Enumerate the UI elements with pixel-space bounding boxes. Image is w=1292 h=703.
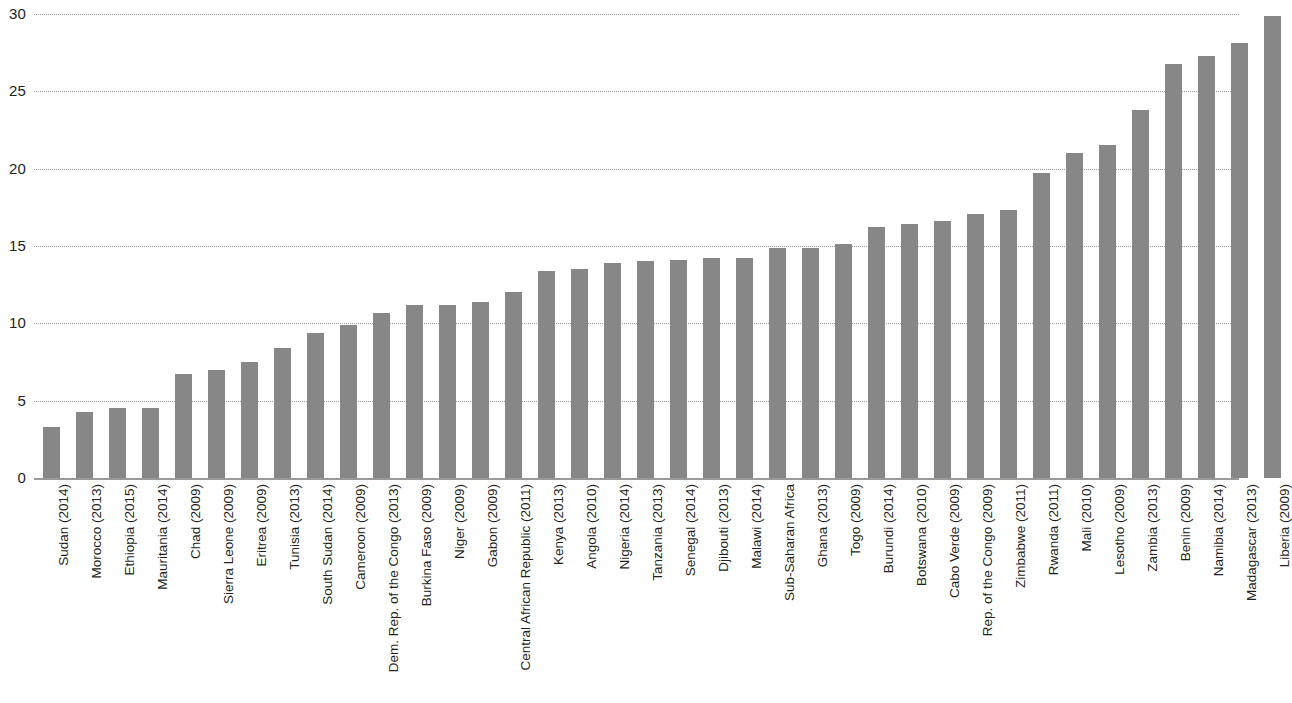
- category-label-text: Burundi (2014): [882, 484, 896, 573]
- category-label-text: Zimbabwe (2011): [1014, 484, 1028, 588]
- category-label-text: Cabo Verde (2009): [948, 484, 962, 598]
- x-axis-category-label: Burundi (2014): [882, 484, 896, 573]
- bar[interactable]: [43, 427, 60, 478]
- x-axis-category-label: Rwanda (2011): [1047, 484, 1061, 575]
- category-label-text: Tanzania (2013): [651, 484, 665, 581]
- x-axis-category-label: Namibia (2014): [1212, 484, 1226, 576]
- bar[interactable]: [1231, 43, 1248, 478]
- x-axis-category-label: Mali (2010): [1080, 484, 1094, 552]
- x-axis-category-label: Sub-Saharan Africa: [783, 484, 797, 601]
- x-axis-category-label: Madagascar (2013): [1245, 484, 1259, 601]
- bar[interactable]: [736, 258, 753, 478]
- category-label-text: Ghana (2013): [816, 484, 830, 567]
- bar[interactable]: [1066, 153, 1083, 478]
- bar[interactable]: [274, 348, 291, 478]
- category-label-text: Lesotho (2009): [1113, 484, 1127, 575]
- bar[interactable]: [967, 214, 984, 478]
- x-axis-category-label: Kenya (2013): [552, 484, 566, 565]
- bar[interactable]: [1033, 173, 1050, 478]
- bar[interactable]: [373, 313, 390, 478]
- bar[interactable]: [1132, 110, 1149, 478]
- category-label-text: Madagascar (2013): [1245, 484, 1259, 601]
- x-axis-category-label: Morocco (2013): [90, 484, 104, 579]
- category-label-text: Central African Republic (2011): [519, 484, 533, 671]
- bar[interactable]: [142, 408, 159, 478]
- category-label-text: Kenya (2013): [552, 484, 566, 565]
- x-axis-category-label: Liberia (2009): [1278, 484, 1292, 567]
- bar[interactable]: [604, 263, 621, 478]
- category-label-text: Burkina Faso (2009): [420, 484, 434, 606]
- bar[interactable]: [1000, 210, 1017, 478]
- category-label-text: South Sudan (2014): [321, 484, 335, 605]
- x-axis-category-label: Chad (2009): [189, 484, 203, 559]
- x-axis-category-label: Sierra Leone (2009): [222, 484, 236, 604]
- x-axis-category-label: Dem. Rep. of the Congo (2013): [387, 484, 401, 672]
- category-label-text: Sub-Saharan Africa: [783, 484, 797, 601]
- bar[interactable]: [406, 305, 423, 478]
- category-label-text: Benin (2009): [1179, 484, 1193, 561]
- category-label-text: Senegal (2014): [684, 484, 698, 576]
- category-label-text: Djibouti (2013): [717, 484, 731, 572]
- category-label-text: Tunisia (2013): [288, 484, 302, 570]
- x-axis-category-labels: Sudan (2014)Morocco (2013)Ethiopia (2015…: [34, 484, 1239, 703]
- x-axis-category-label: Sudan (2014): [57, 484, 71, 566]
- x-axis-category-label: Tanzania (2013): [651, 484, 665, 581]
- y-axis-tick-label: 30: [0, 6, 26, 21]
- bar[interactable]: [670, 260, 687, 478]
- bar[interactable]: [802, 248, 819, 478]
- category-label-text: Togo (2009): [849, 484, 863, 556]
- category-label-text: Angola (2010): [585, 484, 599, 569]
- category-label-text: Malawi (2014): [750, 484, 764, 569]
- bar[interactable]: [835, 244, 852, 478]
- category-label-text: Rwanda (2011): [1047, 484, 1061, 575]
- x-axis-category-label: Niger (2009): [453, 484, 467, 559]
- x-axis-category-label: Botswana (2010): [915, 484, 929, 586]
- x-axis-category-label: Nigeria (2014): [618, 484, 632, 570]
- bar[interactable]: [769, 248, 786, 478]
- x-axis-category-label: Zambia (2013): [1146, 484, 1160, 572]
- y-axis-tick-label: 20: [0, 161, 26, 176]
- bar[interactable]: [109, 408, 126, 478]
- bar[interactable]: [637, 261, 654, 478]
- x-axis-category-label: Cabo Verde (2009): [948, 484, 962, 598]
- x-axis-category-label: Angola (2010): [585, 484, 599, 569]
- bar[interactable]: [571, 269, 588, 478]
- category-label-text: Cameroon (2009): [354, 484, 368, 590]
- x-axis-category-label: Malawi (2014): [750, 484, 764, 569]
- category-label-text: Eritrea (2009): [255, 484, 269, 567]
- category-label-text: Mali (2010): [1080, 484, 1094, 552]
- x-axis-category-label: Central African Republic (2011): [519, 484, 533, 671]
- x-axis-category-label: Zimbabwe (2011): [1014, 484, 1028, 588]
- bar[interactable]: [1198, 56, 1215, 478]
- x-axis-category-label: Lesotho (2009): [1113, 484, 1127, 575]
- bar[interactable]: [1165, 64, 1182, 479]
- bar[interactable]: [439, 305, 456, 478]
- bars-container: [34, 14, 1239, 478]
- category-label-text: Gabon (2009): [486, 484, 500, 567]
- bar[interactable]: [307, 333, 324, 478]
- category-label-text: Chad (2009): [189, 484, 203, 559]
- category-label-text: Mauritania (2014): [156, 484, 170, 590]
- category-label-text: Sudan (2014): [57, 484, 71, 566]
- category-label-text: Zambia (2013): [1146, 484, 1160, 572]
- bar[interactable]: [175, 374, 192, 478]
- x-axis-category-label: Rep. of the Congo (2009): [981, 484, 995, 636]
- bar[interactable]: [208, 370, 225, 478]
- bar[interactable]: [76, 412, 93, 479]
- bar[interactable]: [241, 362, 258, 478]
- x-axis-category-label: Burkina Faso (2009): [420, 484, 434, 606]
- bar[interactable]: [1099, 145, 1116, 478]
- x-axis-category-label: Cameroon (2009): [354, 484, 368, 590]
- bar[interactable]: [901, 224, 918, 478]
- bar[interactable]: [472, 302, 489, 478]
- bar[interactable]: [934, 221, 951, 478]
- bar[interactable]: [1264, 16, 1281, 478]
- category-label-text: Botswana (2010): [915, 484, 929, 586]
- bar[interactable]: [340, 325, 357, 478]
- bar[interactable]: [538, 271, 555, 478]
- bar[interactable]: [868, 227, 885, 478]
- bar[interactable]: [505, 292, 522, 478]
- x-axis-category-label: Djibouti (2013): [717, 484, 731, 572]
- bar[interactable]: [703, 258, 720, 478]
